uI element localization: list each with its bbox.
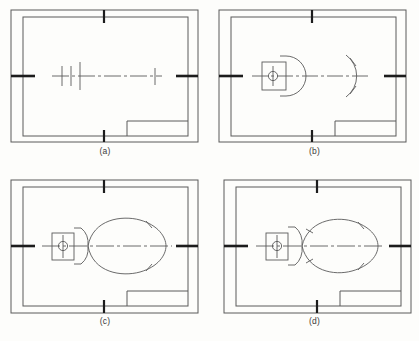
- title-block: [127, 121, 188, 136]
- outer-border: [224, 180, 411, 313]
- title-block: [127, 291, 188, 306]
- tangent-tick-top: [350, 58, 356, 66]
- panel-b-caption: (b): [210, 146, 419, 156]
- figure-grid: (a): [0, 0, 419, 341]
- panel-d-caption: (d): [210, 316, 419, 326]
- title-block: [335, 121, 396, 136]
- panel-b: (b): [210, 0, 419, 171]
- panel-c-caption: (c): [0, 316, 210, 326]
- neck-tick-top: [306, 229, 313, 233]
- panel-a: (a): [0, 0, 210, 171]
- panel-c: (c): [0, 171, 210, 341]
- edge-ticks: [11, 180, 198, 313]
- outer-border: [11, 180, 198, 313]
- inner-border: [236, 187, 401, 306]
- edge-ticks: [224, 180, 411, 313]
- panel-a-caption: (a): [0, 146, 210, 156]
- inner-border: [231, 17, 396, 136]
- neck-tick-bottom: [306, 259, 313, 263]
- inner-border: [23, 187, 188, 306]
- tangent-tick-bottom: [350, 86, 356, 94]
- inner-border: [23, 17, 188, 136]
- title-block: [340, 291, 401, 306]
- panel-d: (d): [210, 171, 419, 341]
